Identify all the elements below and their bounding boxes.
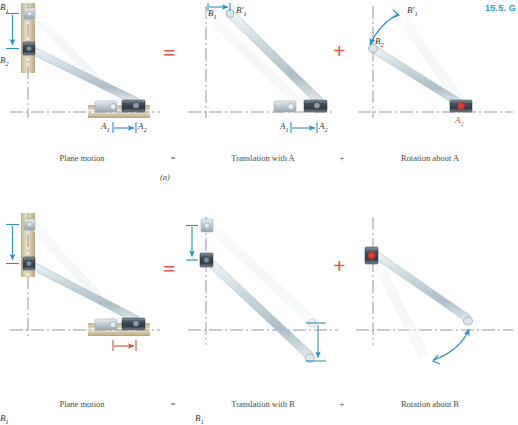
- displacement-arrow-b: [6, 225, 19, 264]
- label-a2: A2: [138, 121, 147, 133]
- label-b1-prime: B′1: [407, 5, 418, 17]
- label-a2: A2: [319, 121, 328, 133]
- label-a1: A1: [280, 121, 289, 133]
- sub-figure-label-a: (a): [0, 172, 330, 182]
- label-b1: B1: [195, 413, 204, 425]
- axis-lines: [356, 217, 513, 345]
- panel-plane-motion-a: B1 B2 A1 A2: [0, 0, 165, 145]
- rod-ghost-b1-prime: [396, 12, 465, 106]
- rod-translated: [227, 11, 323, 106]
- pivot-slider-a2: [450, 100, 472, 112]
- panel-translation-with-a: B1 B′1 A1 A2: [178, 0, 343, 145]
- slider-b1: [201, 219, 213, 232]
- label-b1: B1: [208, 8, 217, 20]
- slider-a1: [274, 101, 296, 112]
- caption-translation-with-a: Translation with A: [198, 153, 328, 163]
- slider-a2: [122, 318, 145, 330]
- figure-plane-motion-decomposition: 15.5. G: [0, 0, 518, 425]
- slider-a2: [304, 100, 327, 112]
- rotation-arc-arrow: [433, 329, 469, 364]
- rod-position-2: [27, 261, 139, 324]
- pivot-slider-b2: [365, 247, 378, 264]
- operator-equals-row-a: =: [163, 42, 176, 64]
- label-a2: A2: [455, 115, 464, 127]
- displacement-arrow-a: [113, 340, 136, 351]
- caption-rotation-about-b: Rotation about B: [360, 399, 500, 409]
- displacement-arrow-b: [6, 14, 19, 49]
- slider-a2: [122, 100, 145, 112]
- operator-equals-row-b: =: [163, 258, 176, 280]
- joint-a2: [463, 317, 472, 325]
- slider-b2: [200, 253, 213, 267]
- caption-equals-row-a: =: [163, 153, 183, 163]
- caption-equals-row-b: =: [163, 399, 183, 409]
- label-a1: A1: [101, 121, 110, 133]
- slider-b1: [24, 8, 35, 19]
- pivot-point-a2: [457, 102, 464, 109]
- label-b1: B1: [0, 2, 9, 14]
- slider-b2: [23, 42, 35, 55]
- panel-plane-motion-b: B1 B2 A1 A2: [0, 205, 165, 365]
- caption-plane-motion-a: Plane motion: [22, 153, 142, 163]
- caption-plus-row-a: +: [333, 153, 351, 163]
- pivot-point-b2: [368, 252, 375, 259]
- caption-translation-with-b: Translation with B: [198, 399, 328, 409]
- panel-rotation-about-b: B2 A2 A′1: [348, 205, 518, 385]
- caption-rotation-about-a: Rotation about A: [360, 153, 500, 163]
- rod-position-2: [27, 46, 139, 106]
- operator-plus-row-b: +: [333, 255, 346, 277]
- slider-a1: [95, 101, 117, 112]
- caption-plus-row-b: +: [333, 399, 351, 409]
- caption-plane-motion-b: Plane motion: [22, 399, 142, 409]
- operator-plus-row-a: +: [333, 40, 346, 62]
- label-b2: B2: [0, 55, 9, 67]
- slider-b2: [23, 257, 35, 270]
- translation-arrow-b: [186, 226, 198, 261]
- slider-a1: [95, 319, 117, 330]
- translation-arrow-a: [291, 122, 317, 133]
- label-b1: B1: [0, 413, 9, 425]
- label-b1-prime: B′1: [236, 5, 247, 17]
- displacement-arrow-a: [113, 122, 136, 133]
- rod-ghost-position-1: [204, 11, 302, 107]
- panel-rotation-about-a: B′1 B2 A2: [348, 0, 518, 145]
- label-b2: B2: [375, 36, 384, 48]
- slider-b1: [24, 219, 35, 230]
- panel-translation-with-b: B1 B2 A1 A′1: [178, 205, 343, 385]
